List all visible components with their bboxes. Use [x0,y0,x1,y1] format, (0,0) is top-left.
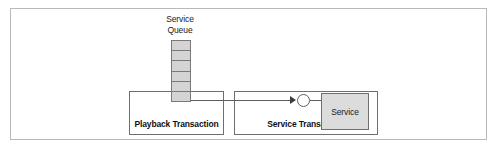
arrow-right-icon [290,96,296,104]
queue-cell [172,72,190,82]
playback-transaction-label: Playback Transaction [130,119,223,129]
service-component-label: Service [331,107,359,117]
queue-cell [172,61,190,71]
service-queue-stack [171,40,191,102]
queue-to-service-connector [189,100,292,101]
queue-cell [172,92,190,101]
queue-cell [172,41,190,51]
service-component-box: Service [321,93,369,130]
service-queue-label: Service Queue [140,14,220,35]
diagram-figure: Service Queue Playback Transaction Servi… [0,0,501,153]
queue-cell [172,51,190,61]
queue-cell [172,82,190,92]
junction-circle-icon [297,94,310,107]
